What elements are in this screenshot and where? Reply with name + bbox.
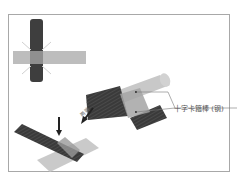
assembled-t-bar (86, 72, 237, 130)
down-arrow (56, 117, 62, 136)
cross-joint-detail (13, 19, 86, 82)
crossed-bars-bottom (14, 124, 99, 172)
callout-label: 十字卡箍棒 (钢) (174, 103, 224, 113)
diagram-illustration (0, 0, 240, 181)
